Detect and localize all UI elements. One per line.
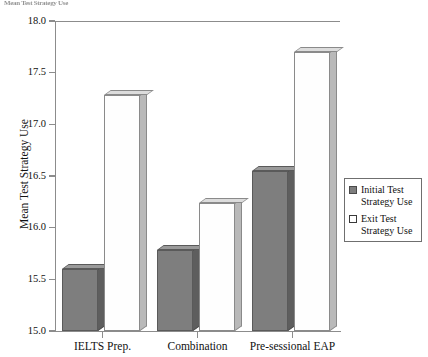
bar-side — [140, 90, 147, 330]
bar-face — [294, 52, 330, 331]
bar-side — [330, 47, 337, 331]
bar-face — [104, 95, 140, 331]
bar-top — [294, 47, 344, 52]
legend-label-initial-line1: Initial Test — [361, 184, 404, 195]
legend-item-initial[interactable]: Initial Test Strategy Use — [349, 184, 417, 207]
legend-item-exit[interactable]: Exit Test Strategy Use — [349, 213, 417, 236]
bar-face — [199, 203, 235, 331]
y-axis-tick-label: 15.0 — [2, 326, 46, 337]
x-axis-tick — [102, 332, 103, 338]
x-axis-tick — [292, 332, 293, 338]
y-axis-tick-label: 15.5 — [2, 274, 46, 285]
bar-initial[interactable] — [252, 171, 288, 331]
legend-label-exit-line2: Strategy Use — [361, 225, 412, 236]
y-axis-tick — [49, 20, 55, 21]
bar-exit[interactable] — [199, 203, 235, 331]
y-axis-tick — [49, 175, 55, 176]
legend-swatch-initial-icon — [349, 186, 357, 194]
bar-face — [252, 171, 288, 331]
y-axis-tick — [49, 227, 55, 228]
y-axis-tick-label: 17.0 — [2, 119, 46, 130]
legend-label-initial-line2: Strategy Use — [361, 196, 412, 207]
bar-face — [62, 269, 98, 331]
y-axis-tick — [49, 124, 55, 125]
y-axis-tick-label: 16.5 — [2, 171, 46, 182]
bar-top — [199, 198, 249, 203]
y-axis-tick — [49, 72, 55, 73]
legend-label-initial: Initial Test Strategy Use — [361, 184, 412, 207]
legend-label-exit: Exit Test Strategy Use — [361, 213, 412, 236]
bar-side — [235, 198, 242, 331]
bar-initial[interactable] — [157, 250, 193, 331]
y-axis-tick — [49, 330, 55, 331]
bar-exit[interactable] — [294, 52, 330, 331]
x-axis-tick — [197, 332, 198, 338]
y-axis-tick-label: 18.0 — [2, 16, 46, 27]
y-axis-tick — [49, 279, 55, 280]
chart-legend: Initial Test Strategy Use Exit Test Stra… — [344, 178, 422, 242]
bar-chart: Mean Test Strategy Use 18.017.517.016.51… — [0, 0, 428, 357]
y-axis-tick-label: 17.5 — [2, 67, 46, 78]
y-axis-tick-label: 16.0 — [2, 222, 46, 233]
legend-swatch-exit-icon — [349, 215, 357, 223]
x-axis-category-label: Pre-sessional EAP — [233, 340, 353, 353]
bar-face — [157, 250, 193, 331]
bar-top — [104, 90, 154, 95]
bar-exit[interactable] — [104, 95, 140, 331]
bar-initial[interactable] — [62, 269, 98, 331]
legend-label-exit-line1: Exit Test — [361, 213, 397, 224]
